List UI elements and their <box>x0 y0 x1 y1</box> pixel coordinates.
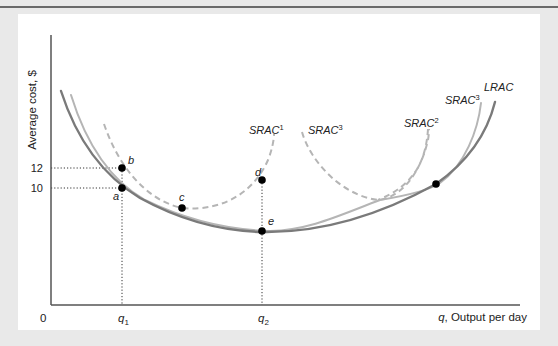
curve-label: SRAC3 <box>308 123 343 136</box>
point-label: b <box>128 154 134 166</box>
point-c <box>178 204 186 212</box>
y-tick-label: 12 <box>31 162 43 174</box>
y-tick-label: 10 <box>31 182 43 194</box>
cost-curve-chart: 1210q1q2 abcde SRAC1SRAC3SRAC2SRAC3LRAC … <box>0 0 558 346</box>
point-b <box>118 164 126 172</box>
y-axis-label: Average cost, $ <box>26 70 38 150</box>
point-a <box>118 184 126 192</box>
point-e <box>258 227 266 235</box>
x-tick-label: q2 <box>258 312 269 327</box>
curve-label: LRAC <box>484 81 513 93</box>
lrac-curve <box>61 91 495 232</box>
curve-label: SRAC3 <box>445 93 480 106</box>
chart-labels: SRAC1SRAC3SRAC2SRAC3LRAC <box>249 81 513 136</box>
point-label: a <box>113 190 119 202</box>
srac1-1-curve <box>104 124 274 208</box>
curve-label: SRAC1 <box>249 123 284 136</box>
point-label: e <box>268 215 274 227</box>
axes: 1210q1q2 <box>31 35 520 327</box>
x-tick-label: q1 <box>118 312 129 327</box>
point-label: d <box>255 166 262 178</box>
srac3-3-curve <box>302 129 429 200</box>
point-tangent <box>432 180 440 188</box>
x-axis-label: q, Output per day <box>438 311 527 323</box>
origin-label: 0 <box>40 312 46 324</box>
cost-curves <box>61 91 495 232</box>
guide-lines <box>51 168 262 305</box>
data-points: abcde <box>113 154 440 235</box>
curve-label: SRAC2 <box>404 116 439 129</box>
point-label: c <box>179 191 185 203</box>
